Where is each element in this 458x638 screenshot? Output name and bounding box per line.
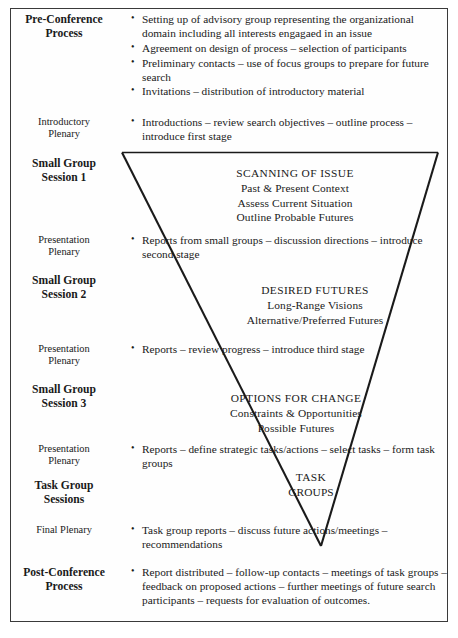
table-row: Final Plenary Task group reports – discu…: [11, 524, 447, 553]
row-label: Small Group Session 3: [11, 383, 119, 410]
stage-line: Outline Probable Futures: [180, 210, 410, 225]
list-item: Task group reports – discuss future acti…: [131, 524, 447, 552]
row-bullets: Report distributed – follow-up contacts …: [119, 566, 447, 609]
row-label: Small Group Session 1: [11, 157, 119, 184]
diagram-page: Pre-Conference Process Setting up of adv…: [0, 0, 458, 638]
list-item: Reports – review progress – introduce th…: [131, 343, 447, 357]
row-bullets: Introductions – review search objectives…: [119, 116, 447, 145]
list-item: Agreement on design of process – selecti…: [131, 42, 447, 56]
row-label: Task Group Sessions: [11, 479, 119, 506]
stage-desired-futures: DESIRED FUTURES Long-Range Visions Alter…: [212, 283, 418, 327]
row-bullets: Reports – review progress – introduce th…: [119, 343, 447, 358]
stage-task-groups: TASK GROUPS: [268, 470, 354, 500]
stage-line: Possible Futures: [196, 421, 396, 436]
table-row: Task Group Sessions: [11, 479, 447, 506]
row-label: Introductory Plenary: [11, 116, 119, 141]
stage-line: Long-Range Visions: [212, 298, 418, 313]
row-bullets: Reports – define strategic tasks/actions…: [119, 443, 447, 472]
row-label: Presentation Plenary: [11, 343, 119, 368]
stage-line: GROUPS: [268, 485, 354, 500]
list-item: Reports from small groups – discussion d…: [131, 234, 447, 262]
row-bullets: Setting up of advisory group representin…: [119, 13, 447, 100]
table-row: Presentation Plenary Reports from small …: [11, 234, 447, 263]
table-row: Introductory Plenary Introductions – rev…: [11, 116, 447, 145]
stage-heading: TASK: [268, 470, 354, 485]
list-item: Report distributed – follow-up contacts …: [131, 566, 447, 608]
list-item: Introductions – review search objectives…: [131, 116, 447, 144]
stage-heading: SCANNING OF ISSUE: [180, 166, 410, 181]
row-label: Pre-Conference Process: [11, 13, 119, 40]
stage-heading: DESIRED FUTURES: [212, 283, 418, 298]
row-label: Final Plenary: [11, 524, 119, 536]
table-row: Presentation Plenary Reports – review pr…: [11, 343, 447, 368]
row-label: Post-Conference Process: [11, 566, 119, 593]
row-bullets: Reports from small groups – discussion d…: [119, 234, 447, 263]
list-item: Preliminary contacts – use of focus grou…: [131, 57, 447, 85]
table-row: Post-Conference Process Report distribut…: [11, 566, 447, 609]
row-bullets: Task group reports – discuss future acti…: [119, 524, 447, 553]
row-label: Small Group Session 2: [11, 274, 119, 301]
stage-heading: OPTIONS FOR CHANGE: [196, 391, 396, 406]
table-row: Presentation Plenary Reports – define st…: [11, 443, 447, 472]
list-item: Reports – define strategic tasks/actions…: [131, 443, 447, 471]
row-label: Presentation Plenary: [11, 443, 119, 468]
stage-line: Assess Current Situation: [180, 196, 410, 211]
row-label: Presentation Plenary: [11, 234, 119, 259]
list-item: Invitations – distribution of introducto…: [131, 85, 447, 99]
stage-scanning-of-issue: SCANNING OF ISSUE Past & Present Context…: [180, 166, 410, 225]
stage-line: Past & Present Context: [180, 181, 410, 196]
stage-options-for-change: OPTIONS FOR CHANGE Constraints & Opportu…: [196, 391, 396, 435]
stage-line: Constraints & Opportunities: [196, 406, 396, 421]
table-row: Pre-Conference Process Setting up of adv…: [11, 13, 447, 100]
stage-line: Alternative/Preferred Futures: [212, 313, 418, 328]
list-item: Setting up of advisory group representin…: [131, 13, 447, 41]
